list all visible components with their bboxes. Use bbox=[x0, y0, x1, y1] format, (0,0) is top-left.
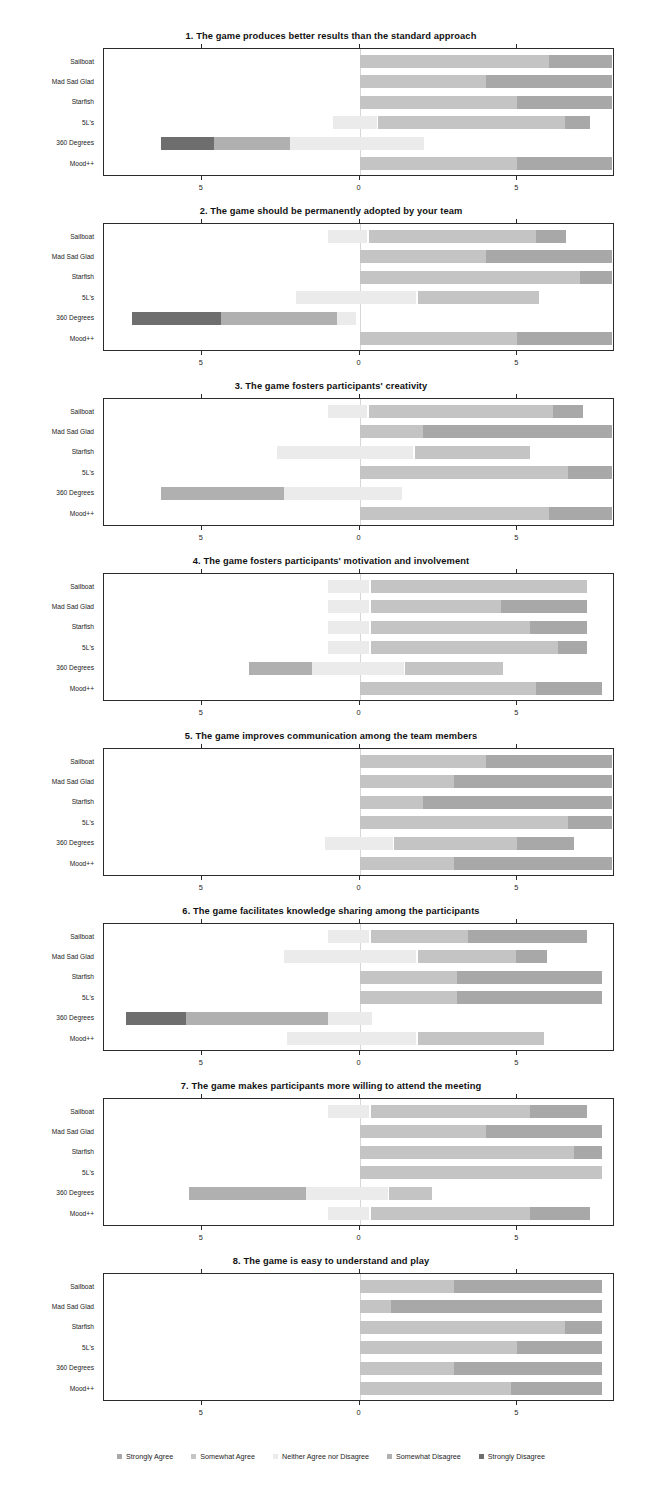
axis-tick bbox=[201, 176, 202, 180]
axis-tick-label: 0 bbox=[356, 1058, 360, 1067]
bar-segment-strongly-agree bbox=[501, 600, 586, 613]
plot-frame bbox=[103, 1098, 614, 1226]
chart-title: 8. The game is easy to understand and pl… bbox=[0, 1256, 662, 1266]
bar-segment-neither bbox=[284, 950, 416, 963]
axis-tick bbox=[359, 1401, 360, 1405]
bar-row bbox=[104, 1012, 613, 1025]
bar-row bbox=[104, 1382, 613, 1395]
category-axis: SailboatMad Sad GladStarfish5L's360 Degr… bbox=[0, 1098, 98, 1226]
bar-row bbox=[104, 230, 613, 243]
chart-title: 7. The game makes participants more will… bbox=[0, 1081, 662, 1091]
bar-segment-somewhat-agree bbox=[360, 816, 568, 829]
bar-segment-strongly-agree bbox=[454, 1280, 602, 1293]
axis-tick bbox=[359, 351, 360, 355]
bar-row bbox=[104, 466, 613, 479]
category-label: Sailboat bbox=[70, 582, 94, 589]
category-label: Starfish bbox=[72, 448, 94, 455]
plot-frame bbox=[103, 48, 614, 176]
axis-tick-label: 5 bbox=[199, 183, 203, 192]
bar-segment-neither bbox=[328, 621, 369, 634]
category-label: Mood++ bbox=[70, 1384, 94, 1391]
bar-row bbox=[104, 1207, 613, 1220]
bar-segment-somewhat-agree bbox=[360, 250, 486, 263]
plot-frame bbox=[103, 223, 614, 351]
axis-tick-label: 0 bbox=[356, 1233, 360, 1242]
bar-segment-somewhat-agree bbox=[360, 425, 423, 438]
bar-segment-strongly-agree bbox=[468, 930, 586, 943]
category-axis: SailboatMad Sad GladStarfish5L's360 Degr… bbox=[0, 223, 98, 351]
plot-frame bbox=[103, 923, 614, 1051]
category-axis: SailboatMad Sad GladStarfish5L's360 Degr… bbox=[0, 748, 98, 876]
bar-segment-somewhat-agree bbox=[360, 991, 458, 1004]
bar-row bbox=[104, 857, 613, 870]
chart-title: 3. The game fosters participants' creati… bbox=[0, 381, 662, 391]
bar-row bbox=[104, 1032, 613, 1045]
bar-segment-neither bbox=[325, 837, 393, 850]
bar-segment-somewhat-agree bbox=[360, 1362, 455, 1375]
bar-row bbox=[104, 796, 613, 809]
category-axis: SailboatMad Sad GladStarfish5L's360 Degr… bbox=[0, 48, 98, 176]
bar-row bbox=[104, 157, 613, 170]
bar-segment-somewhat-disagree bbox=[221, 312, 338, 325]
bar-row bbox=[104, 446, 613, 459]
plot-frame bbox=[103, 1273, 614, 1401]
bar-segment-neither bbox=[328, 230, 367, 243]
bar-segment-strongly-agree bbox=[517, 1341, 602, 1354]
category-label: 5L's bbox=[82, 643, 94, 650]
bar-segment-somewhat-disagree bbox=[214, 137, 290, 150]
legend-swatch-icon bbox=[387, 1454, 392, 1459]
category-label: Mad Sad Glad bbox=[52, 602, 94, 609]
bar-row bbox=[104, 405, 613, 418]
bar-segment-somewhat-agree bbox=[360, 796, 423, 809]
category-axis: SailboatMad Sad GladStarfish5L's360 Degr… bbox=[0, 573, 98, 701]
category-label: 5L's bbox=[82, 1168, 94, 1175]
bar-segment-somewhat-agree bbox=[360, 96, 518, 109]
bar-segment-somewhat-agree bbox=[415, 446, 530, 459]
bar-segment-strongly-agree bbox=[486, 1125, 603, 1138]
bar-row bbox=[104, 1105, 613, 1118]
bar-row bbox=[104, 1146, 613, 1159]
legend-item: Strongly Disagree bbox=[479, 1452, 545, 1461]
bar-segment-somewhat-agree bbox=[360, 1341, 518, 1354]
bar-row bbox=[104, 1187, 613, 1200]
chart-panel-2: 2. The game should be permanently adopte… bbox=[0, 203, 662, 378]
legend-item: Neither Agree nor Disagree bbox=[273, 1452, 369, 1461]
category-label: Mood++ bbox=[70, 159, 94, 166]
bar-row bbox=[104, 1166, 613, 1179]
category-label: Mad Sad Glad bbox=[52, 77, 94, 84]
value-axis: 505 bbox=[103, 176, 614, 202]
legend-item: Somewhat Agree bbox=[191, 1452, 255, 1461]
plot-frame bbox=[103, 573, 614, 701]
category-label: 360 Degrees bbox=[56, 1189, 94, 1196]
bar-segment-somewhat-disagree bbox=[189, 1187, 306, 1200]
category-label: Mad Sad Glad bbox=[52, 1302, 94, 1309]
bar-segment-somewhat-agree bbox=[418, 291, 539, 304]
bar-segment-somewhat-disagree bbox=[249, 662, 312, 675]
value-axis: 505 bbox=[103, 876, 614, 902]
category-label: Sailboat bbox=[70, 1107, 94, 1114]
bar-row bbox=[104, 96, 613, 109]
bar-row bbox=[104, 930, 613, 943]
bar-segment-somewhat-agree bbox=[369, 405, 554, 418]
bar-row bbox=[104, 1300, 613, 1313]
bar-segment-neither bbox=[328, 405, 367, 418]
bar-segment-somewhat-agree bbox=[360, 271, 581, 284]
bar-row bbox=[104, 682, 613, 695]
bar-segment-strongly-agree bbox=[454, 775, 612, 788]
chart-panel-7: 7. The game makes participants more will… bbox=[0, 1078, 662, 1253]
axis-tick-label: 0 bbox=[356, 358, 360, 367]
value-axis: 505 bbox=[103, 1051, 614, 1077]
bar-row bbox=[104, 1125, 613, 1138]
category-label: 5L's bbox=[82, 118, 94, 125]
legend-label: Somewhat Disagree bbox=[396, 1452, 461, 1461]
bar-segment-neither bbox=[290, 137, 424, 150]
figure-sheet: 1. The game produces better results than… bbox=[0, 0, 662, 1494]
axis-tick bbox=[359, 1051, 360, 1055]
bar-segment-somewhat-agree bbox=[389, 1187, 432, 1200]
bar-segment-neither bbox=[328, 1105, 369, 1118]
bar-segment-somewhat-agree bbox=[405, 662, 503, 675]
bar-segment-strongly-agree bbox=[580, 271, 612, 284]
bar-row bbox=[104, 291, 613, 304]
axis-tick-label: 0 bbox=[356, 183, 360, 192]
axis-tick-label: 5 bbox=[199, 1233, 203, 1242]
